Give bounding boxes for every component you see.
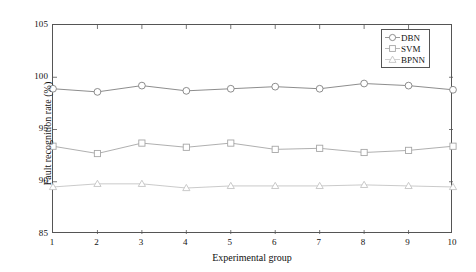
- x-tick-9: 9: [393, 238, 423, 247]
- x-tick-1: 1: [37, 238, 67, 247]
- legend-item-dbn: DBN: [385, 32, 425, 43]
- legend-item-svm: SVM: [385, 43, 425, 54]
- legend-item-bpnn: BPNN: [385, 54, 425, 65]
- x-tick-8: 8: [348, 238, 378, 247]
- x-tick-7: 7: [304, 238, 334, 247]
- square-marker-icon: [385, 43, 400, 54]
- x-tick-3: 3: [126, 238, 156, 247]
- y-axis-title: Fault recognition rate (%): [42, 29, 53, 238]
- chart-figure: 859095100105 12345678910 Fault recogniti…: [0, 0, 476, 272]
- x-tick-5: 5: [215, 238, 245, 247]
- x-tick-2: 2: [81, 238, 111, 247]
- x-tick-10: 10: [437, 238, 467, 247]
- x-axis-title: Experimental group: [52, 252, 452, 263]
- legend-label-dbn: DBN: [400, 33, 420, 43]
- x-tick-6: 6: [259, 238, 289, 247]
- legend-label-bpnn: BPNN: [400, 55, 425, 65]
- x-tick-4: 4: [170, 238, 200, 247]
- legend-label-svm: SVM: [400, 44, 421, 54]
- chart-legend: DBN SVM BPNN: [381, 29, 430, 68]
- triangle-marker-icon: [385, 54, 400, 65]
- circle-marker-icon: [385, 32, 400, 43]
